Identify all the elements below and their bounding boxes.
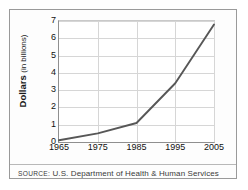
series-line-layer [59,21,214,142]
y-axis-tick-label: 5 [40,50,56,59]
y-axis-tick-label: 7 [40,16,56,25]
y-axis-title-strong: Dollars [17,75,28,107]
gridline-vertical [214,21,215,142]
x-axis-tick-labels: 19651975198519952005 [58,143,215,155]
chart-figure: Dollars (in billions) 01234567 196519751… [9,9,237,179]
y-axis-title-soft: (in billions) [19,35,28,73]
x-axis-tick-label: 1975 [88,143,108,152]
y-axis-tick-label: 4 [40,67,56,76]
source-note-text: U.S. Department of Health & Human Servic… [52,169,219,178]
source-note-label: SOURCE: [18,170,50,177]
source-note: SOURCE: U.S. Department of Health & Huma… [10,164,236,178]
y-axis-tick-label: 3 [40,85,56,94]
x-axis-tick-label: 2005 [204,143,224,152]
x-axis-tick-label: 1995 [165,143,185,152]
y-axis-tick-label: 2 [40,102,56,111]
series-line [59,24,214,140]
plot-box [58,20,215,143]
y-axis-tick-label: 6 [40,33,56,42]
plot-area-wrapper: Dollars (in billions) 01234567 196519751… [10,10,236,164]
y-axis-tick-labels: 01234567 [37,10,56,141]
x-axis-tick-label: 1985 [126,143,146,152]
y-axis-tick-label: 1 [40,119,56,128]
y-axis-title: Dollars (in billions) [12,10,34,132]
x-axis-tick-label: 1965 [49,143,69,152]
